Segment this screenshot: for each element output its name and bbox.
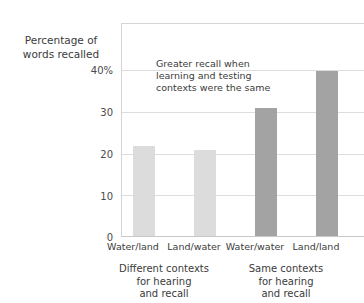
group-label-same-contexts: Same contexts for hearing and recall bbox=[225, 263, 347, 301]
x-tick-label-water-land: Water/land bbox=[102, 241, 164, 253]
annotation-greater-recall: Greater recall when learning and testing… bbox=[156, 58, 291, 95]
x-tick-label-land-land: Land/land bbox=[285, 241, 347, 253]
y-axis-title: Percentage of words recalled bbox=[8, 34, 114, 61]
bar-land-water bbox=[194, 150, 216, 236]
axis-left-line bbox=[121, 23, 122, 237]
y-tick-label-20: 20 bbox=[73, 150, 113, 160]
group-label-different-contexts: Different contexts for hearing and recal… bbox=[103, 263, 225, 301]
plot-area: Greater recall when learning and testing… bbox=[121, 23, 364, 237]
y-tick-label-40: 40% bbox=[73, 66, 113, 76]
axis-bottom-line bbox=[121, 236, 364, 237]
x-tick-label-water-water: Water/water bbox=[224, 241, 286, 253]
y-tick-label-30: 30 bbox=[73, 108, 113, 118]
x-tick-label-land-water: Land/water bbox=[163, 241, 225, 253]
bar-land-land bbox=[316, 71, 338, 236]
y-tick-label-10: 10 bbox=[73, 192, 113, 202]
axis-top-line bbox=[121, 23, 364, 24]
bar-water-water bbox=[255, 108, 277, 236]
bar-chart: Percentage of words recalled 40% 30 20 1… bbox=[0, 0, 364, 303]
bar-water-land bbox=[133, 146, 155, 236]
